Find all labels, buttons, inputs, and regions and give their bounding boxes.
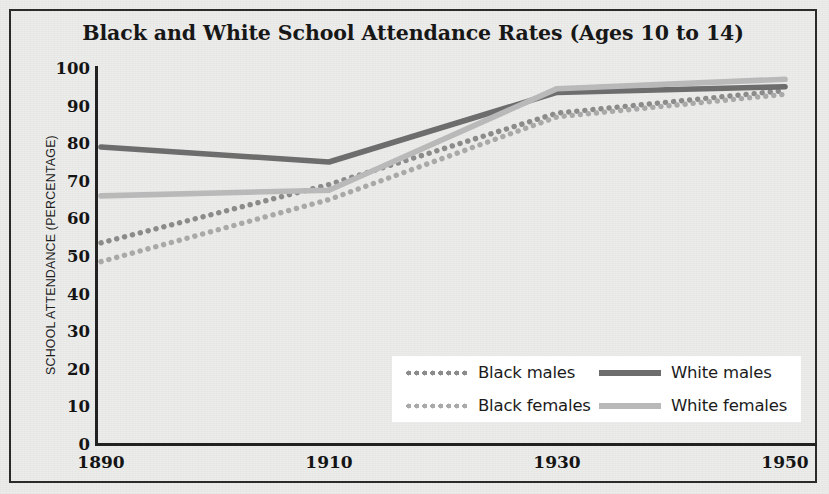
- legend-label: Black females: [478, 396, 591, 415]
- legend-item-white-females[interactable]: White females: [585, 396, 801, 415]
- legend-label: Black males: [478, 363, 575, 382]
- x-tick-label: 1890: [77, 452, 124, 472]
- y-tick-label: 10: [36, 397, 90, 416]
- legend-swatch-solid-light-icon: [599, 403, 661, 409]
- chart-page: Black and White School Attendance Rates …: [0, 0, 829, 494]
- y-tick-label: 0: [36, 435, 90, 454]
- y-tick-label: 70: [36, 171, 90, 190]
- legend-swatch-solid-dark-icon: [599, 370, 661, 376]
- series-line-black-females: [101, 94, 785, 261]
- y-tick-label: 80: [36, 134, 90, 153]
- y-tick-label: 30: [36, 322, 90, 341]
- y-tick-label: 100: [36, 59, 90, 78]
- series-line-black-males: [101, 91, 785, 243]
- x-tick-label: 1930: [533, 452, 580, 472]
- y-tick-label: 50: [36, 247, 90, 266]
- series-line-white-females: [101, 79, 785, 196]
- x-axis-tick-labels: 1890191019301950: [97, 452, 817, 476]
- x-tick-label: 1910: [305, 452, 352, 472]
- chart-title: Black and White School Attendance Rates …: [9, 21, 817, 45]
- legend-swatch-dotted-dark-icon: [406, 370, 468, 376]
- y-tick-label: 40: [36, 284, 90, 303]
- legend-swatch-dotted-light-icon: [406, 403, 468, 409]
- x-tick-label: 1950: [761, 452, 808, 472]
- legend-label: White males: [671, 363, 772, 382]
- legend-item-black-males[interactable]: Black males: [392, 363, 585, 382]
- chart-legend: Black males White males Black females Wh…: [392, 356, 801, 422]
- y-tick-label: 90: [36, 96, 90, 115]
- legend-label: White females: [671, 396, 787, 415]
- legend-item-black-females[interactable]: Black females: [392, 396, 585, 415]
- legend-item-white-males[interactable]: White males: [585, 363, 801, 382]
- y-tick-label: 60: [36, 209, 90, 228]
- y-axis-tick-labels: 0102030405060708090100: [30, 68, 90, 444]
- y-tick-label: 20: [36, 359, 90, 378]
- series-line-white-males: [101, 87, 785, 162]
